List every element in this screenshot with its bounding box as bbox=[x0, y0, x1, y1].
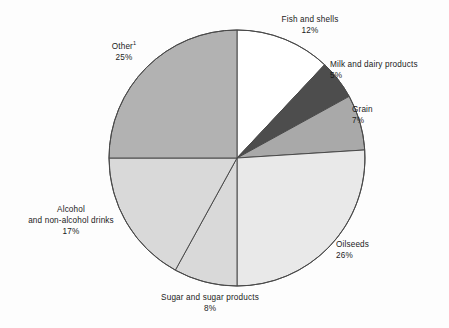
pie-label-oilseeds-name: Oilseeds bbox=[336, 239, 406, 250]
pie-chart-canvas bbox=[0, 0, 449, 328]
pie-label-other-name: Other1 bbox=[88, 41, 160, 52]
pie-label-other-footnote-marker: 1 bbox=[133, 40, 136, 46]
pie-label-milk-and-dairy-products-value: 5% bbox=[330, 70, 448, 81]
pie-label-alcohol-name-line1: Alcohol bbox=[10, 204, 132, 215]
pie-label-fish-and-shells-name: Fish and shells bbox=[258, 14, 362, 25]
pie-label-fish-and-shells-value: 12% bbox=[258, 25, 362, 36]
pie-label-other-value: 25% bbox=[88, 52, 160, 63]
pie-label-milk-and-dairy-products: Milk and dairy products 5% bbox=[330, 59, 448, 81]
pie-label-alcohol-name-line2: and non-alcohol drinks bbox=[10, 215, 132, 226]
pie-chart-figure: Fish and shells 12% Milk and dairy produ… bbox=[0, 0, 449, 328]
pie-label-oilseeds: Oilseeds 26% bbox=[336, 239, 406, 261]
pie-slice-oilseeds bbox=[237, 150, 365, 286]
pie-label-grain: Grain 7% bbox=[352, 104, 414, 126]
pie-label-oilseeds-value: 26% bbox=[336, 250, 406, 261]
pie-label-milk-and-dairy-products-name: Milk and dairy products bbox=[330, 59, 448, 70]
pie-label-fish-and-shells: Fish and shells 12% bbox=[258, 14, 362, 36]
pie-label-alcohol-and-non-alcohol-drinks: Alcohol and non-alcohol drinks 17% bbox=[10, 204, 132, 238]
pie-label-sugar-and-sugar-products-value: 8% bbox=[134, 303, 286, 314]
pie-label-grain-name: Grain bbox=[352, 104, 414, 115]
pie-label-alcohol-value: 17% bbox=[10, 226, 132, 237]
pie-label-other: Other1 25% bbox=[88, 41, 160, 63]
pie-label-sugar-and-sugar-products: Sugar and sugar products 8% bbox=[134, 292, 286, 314]
pie-label-grain-value: 7% bbox=[352, 115, 414, 126]
pie-label-sugar-and-sugar-products-name: Sugar and sugar products bbox=[134, 292, 286, 303]
pie-slice-group bbox=[109, 30, 365, 286]
pie-label-other-text: Other bbox=[112, 42, 133, 51]
